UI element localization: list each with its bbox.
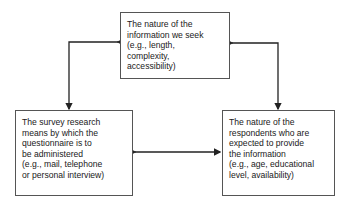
node-means: The survey research means by which the q… [15, 110, 133, 196]
node-text: complexity, [127, 51, 223, 62]
node-text: accessibility) [127, 61, 223, 72]
node-text: information we seek [127, 30, 223, 41]
edge-information-respondents [232, 43, 278, 109]
node-text: be administered [22, 149, 126, 160]
node-text: the information [229, 149, 328, 160]
node-text: (e.g., length, [127, 40, 223, 51]
edge-means-information [69, 42, 118, 109]
node-text: respondents who are [229, 128, 328, 139]
node-text: (e.g., age, educational [229, 159, 328, 170]
node-text: The nature of the [127, 19, 223, 30]
node-respondents: The nature of the respondents who are ex… [222, 110, 335, 196]
node-text: The survey research [22, 117, 126, 128]
node-text: or personal interview) [22, 170, 126, 181]
node-text: level, availability) [229, 170, 328, 181]
node-text: The nature of the [229, 117, 328, 128]
node-text: expected to provide [229, 138, 328, 149]
node-text: (e.g., mail, telephone [22, 159, 126, 170]
node-information: The nature of the information we seek (e… [120, 12, 230, 79]
node-text: questionnaire is to [22, 138, 126, 149]
node-text: means by which the [22, 128, 126, 139]
